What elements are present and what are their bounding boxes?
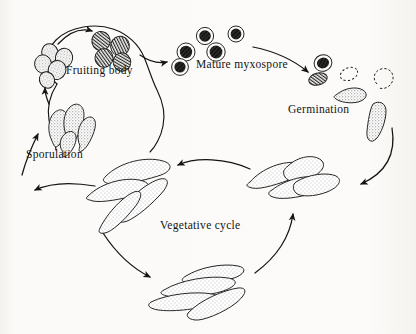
arrow-vegetative-to-sporulation	[35, 184, 95, 190]
germinating-spore-dark	[312, 52, 335, 74]
arrow-rods-to-spores	[45, 88, 49, 104]
emerging-rod	[334, 88, 366, 103]
label-mature-myxospore: Mature myxospore	[196, 58, 288, 70]
opening-coat	[374, 69, 393, 89]
germination-series-group	[307, 52, 393, 141]
arrow-vegetative-right-to-left	[178, 160, 250, 169]
vegetative-rods-left	[86, 159, 170, 233]
arrow-vegetative-left-to-bottom	[103, 233, 150, 277]
vegetative-rods-right	[247, 157, 340, 199]
label-vegetative-cycle: Vegetative cycle	[160, 219, 240, 231]
label-fruiting-body: Fruiting body	[66, 64, 133, 76]
arrow-aggregation-to-spores	[58, 30, 92, 44]
elongating-rod	[367, 102, 386, 141]
arrow-vegetative-up-right	[255, 214, 293, 273]
germinating-spore-fading	[307, 71, 328, 87]
life-cycle-diagram: .ln{fill:none;stroke:#141414;stroke-widt…	[0, 0, 416, 334]
myxobacteria-life-cycle-figure: .ln{fill:none;stroke:#141414;stroke-widt…	[0, 0, 416, 334]
label-germination: Germination	[288, 103, 349, 115]
vegetative-rods-bottom	[149, 265, 245, 320]
empty-spore-coat	[338, 65, 359, 83]
label-sporulation: Sporulation	[26, 148, 83, 160]
